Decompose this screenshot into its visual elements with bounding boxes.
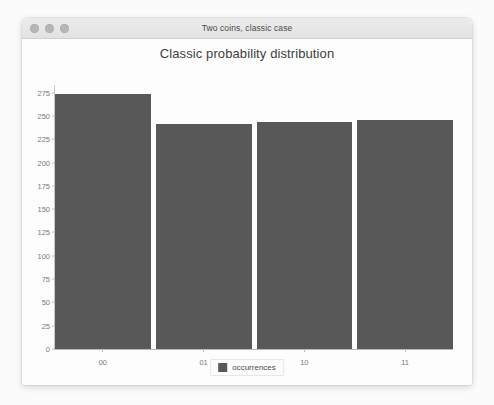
y-tick-225: 225 [37,135,55,144]
x-tick-label-00: 00 [55,358,151,367]
bar-11 [357,120,453,349]
y-tick-250: 250 [37,111,55,120]
bar-00 [55,94,151,349]
y-tick-label: 125 [37,228,50,237]
window-title: Two coins, classic case [202,23,293,33]
y-tick-175: 175 [37,181,55,190]
plot-area: 0255075100125150175200225250275 00011011 [55,87,453,349]
y-tick-125: 125 [37,228,55,237]
legend-swatch-icon [218,363,227,372]
window-titlebar: Two coins, classic case [22,18,472,39]
close-button-icon[interactable] [30,24,39,33]
legend-label: occurrences [232,363,276,372]
y-tick-0: 0 [46,345,55,354]
y-tick-label: 50 [42,298,50,307]
window-controls[interactable] [30,18,69,38]
x-tick-label-11: 11 [357,358,453,367]
y-tick-label: 250 [37,111,50,120]
y-tick-275: 275 [37,88,55,97]
y-tick-50: 50 [42,298,55,307]
y-tick-label: 0 [46,345,50,354]
y-tick-label: 200 [37,158,50,167]
y-tick-200: 200 [37,158,55,167]
bar-10 [257,122,353,350]
y-tick-label: 225 [37,135,50,144]
bar-series-occurrences [55,87,453,349]
zoom-button-icon[interactable] [60,24,69,33]
chart-legend: occurrences [210,359,284,376]
y-tick-25: 25 [42,321,55,330]
minimize-button-icon[interactable] [45,24,54,33]
y-tick-150: 150 [37,205,55,214]
y-tick-label: 150 [37,205,50,214]
y-tick-75: 75 [42,275,55,284]
window-body: Classic probability distribution 0255075… [22,39,472,385]
y-tick-label: 75 [42,275,50,284]
y-tick-label: 275 [37,88,50,97]
y-tick-label: 175 [37,181,50,190]
bar-01 [156,124,252,349]
chart-title: Classic probability distribution [22,46,472,61]
app-window: Two coins, classic case Classic probabil… [22,18,472,385]
y-tick-label: 100 [37,251,50,260]
y-tick-label: 25 [42,321,50,330]
y-tick-100: 100 [37,251,55,260]
